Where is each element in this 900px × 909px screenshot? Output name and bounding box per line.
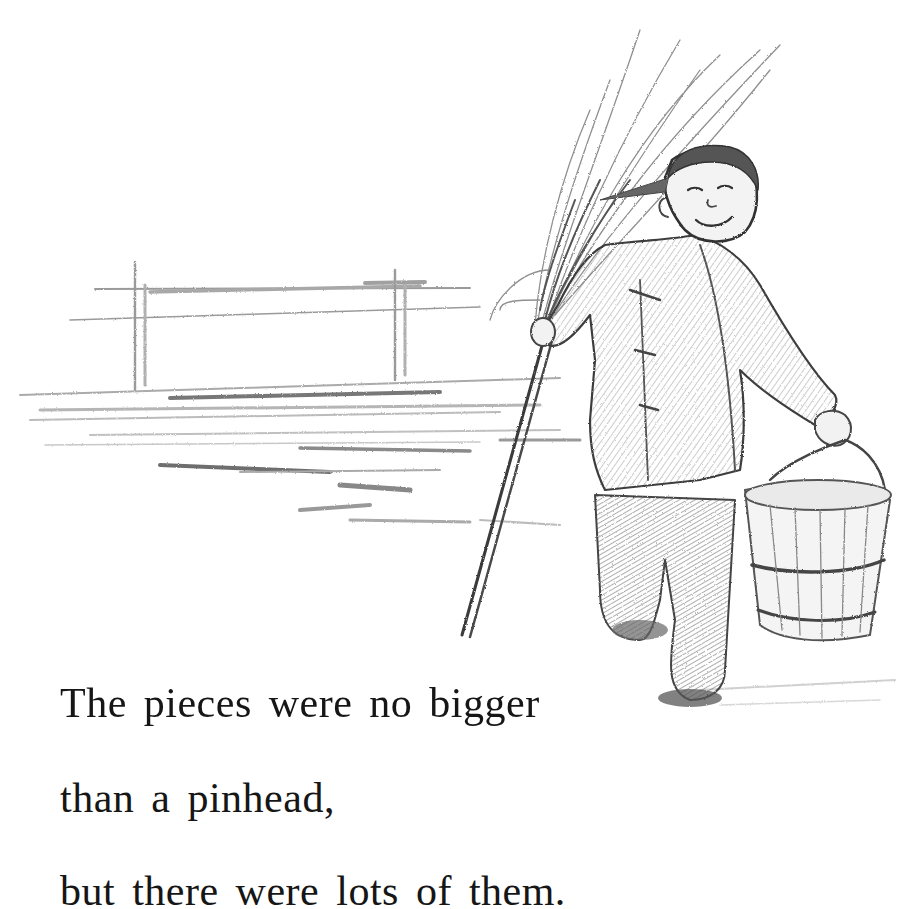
pencil-illustration [0,0,900,740]
distant-gate [70,262,480,390]
story-line-3: but there were lots of them. [60,870,566,909]
story-line-2: than a pinhead, [60,777,335,819]
wooden-bucket [745,440,891,640]
story-line-1: The pieces were no bigger [60,682,540,724]
